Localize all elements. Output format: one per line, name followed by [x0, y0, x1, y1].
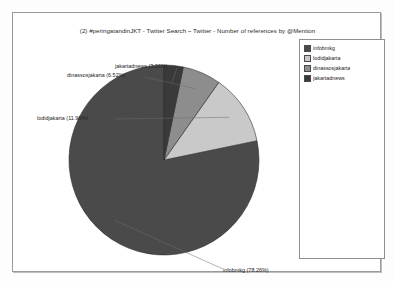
chart-frame: (2) #peringatandinJKT - Twitter Search ~… — [12, 12, 381, 272]
pie-slice-label-jakartadnews: jakartadnews (3.26%) — [115, 63, 168, 70]
pie-slice-label-lodidjakarta: lodidjakarta (11.96%) — [37, 115, 88, 122]
legend-item-infobmkg[interactable]: infobmkg — [304, 44, 381, 53]
legend-item-label: jakartadnews — [313, 75, 345, 82]
screenshot-root: (2) #peringatandinJKT - Twitter Search ~… — [0, 0, 394, 281]
legend-swatch-icon — [304, 65, 311, 72]
pie-plot-area: infobmkg (78.26%) lodidjakarta (11.96%) … — [27, 37, 289, 271]
legend-item-label: lodidjakarta — [313, 55, 341, 62]
chart-title: (2) #peringatandinJKT - Twitter Search ~… — [25, 26, 370, 35]
legend-swatch-icon — [304, 45, 311, 52]
pie-slices-group — [69, 65, 259, 255]
pie-slice-label-infobmkg: infobmkg (78.26%) — [223, 267, 269, 274]
legend-swatch-icon — [304, 75, 311, 82]
legend-item-jakartadnews[interactable]: jakartadnews — [304, 74, 381, 83]
legend-box: infobmkglodidjakartadinassosjakartajakar… — [299, 39, 385, 259]
legend-item-lodidjakarta[interactable]: lodidjakarta — [304, 54, 381, 63]
legend-swatch-icon — [304, 55, 311, 62]
pie-slice-label-dinassosjakarta: dinassosjakarta (6.52%) — [67, 72, 125, 79]
legend-item-label: infobmkg — [313, 45, 335, 52]
legend-list: infobmkglodidjakartadinassosjakartajakar… — [304, 44, 381, 84]
legend-item-label: dinassosjakarta — [313, 65, 350, 72]
legend-item-dinassosjakarta[interactable]: dinassosjakarta — [304, 64, 381, 73]
